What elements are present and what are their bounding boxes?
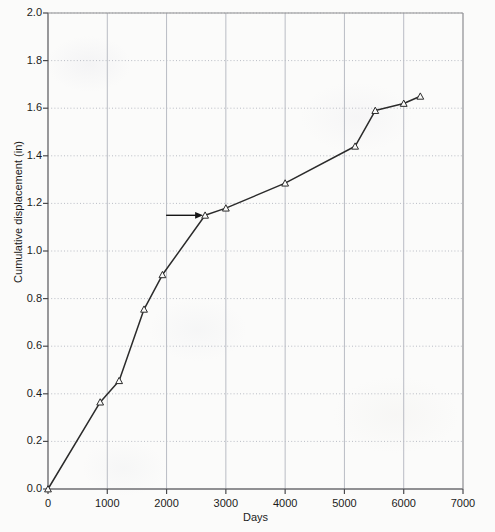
x-axis-tick-labels: 01000200030004000500060007000 xyxy=(0,0,495,532)
x-tick-label: 3000 xyxy=(196,497,256,509)
x-tick-label: 6000 xyxy=(374,497,434,509)
x-tick-label: 2000 xyxy=(137,497,197,509)
x-axis-title: Days xyxy=(48,511,463,523)
x-tick-label: 1000 xyxy=(77,497,137,509)
y-axis-title: Cumulative displacement (in) xyxy=(12,132,24,292)
x-tick-label: 4000 xyxy=(255,497,315,509)
chart-figure: 0.00.20.40.60.81.01.21.41.61.82.0 010002… xyxy=(0,0,495,532)
x-tick-label: 0 xyxy=(18,497,78,509)
x-tick-label: 7000 xyxy=(433,497,493,509)
x-tick-label: 5000 xyxy=(314,497,374,509)
